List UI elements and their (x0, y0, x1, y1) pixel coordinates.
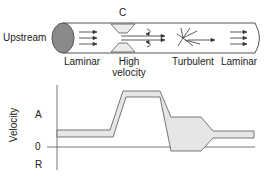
velocity-band (57, 91, 254, 151)
velocity-graph (47, 85, 255, 170)
region-turbulent-label: Turbulent (172, 57, 214, 67)
upstream-label: Upstream (3, 33, 46, 43)
upstream-opening (52, 23, 74, 53)
y-axis-label: Velocity (9, 105, 19, 145)
y-tick-r: R (35, 160, 42, 170)
y-tick-zero: 0 (35, 142, 41, 152)
y-tick-a: A (35, 110, 42, 120)
constriction-label: C (119, 8, 126, 18)
region-laminar-1-label: Laminar (64, 57, 100, 67)
region-laminar-2-label: Laminar (221, 57, 257, 67)
region-high-velocity-label-2: velocity (109, 68, 149, 78)
region-high-velocity-label-1: High (114, 57, 144, 67)
